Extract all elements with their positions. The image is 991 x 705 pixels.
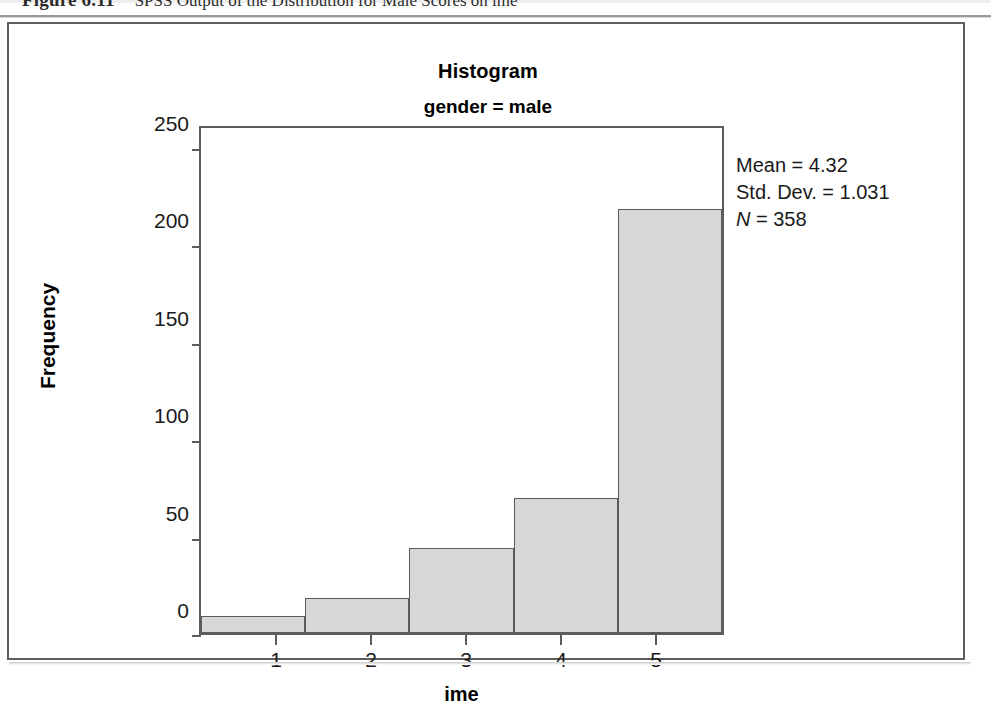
- x-tick-mark-4: [560, 635, 562, 645]
- figure-caption-text: SPSS Output of the Distribution for Male…: [135, 0, 518, 10]
- y-tick-label-100: 100: [154, 404, 189, 428]
- x-tick-label-4: 4: [541, 648, 581, 672]
- x-axis-title: ime: [199, 683, 724, 705]
- stat-stddev: Std. Dev. = 1.031: [736, 179, 890, 206]
- histogram-bar: [514, 498, 618, 633]
- x-tick-label-2: 2: [351, 648, 391, 672]
- y-tick-label-200: 200: [154, 209, 189, 233]
- figure-frame: Histogram gender = male Frequency 250 20…: [7, 22, 965, 660]
- x-tick-mark-2: [370, 635, 372, 645]
- histogram-bar: [618, 209, 722, 633]
- stat-n: N = 358: [736, 206, 890, 233]
- y-axis-ticks: 250 200 150 100 50 0: [104, 126, 189, 635]
- stat-mean: Mean = 4.32: [736, 152, 890, 179]
- y-tick-label-150: 150: [154, 307, 189, 331]
- histogram-bar: [305, 598, 409, 633]
- plot-area: [199, 126, 724, 635]
- x-tick-mark-1: [275, 635, 277, 645]
- caption-divider-rule-shadow: [0, 17, 991, 18]
- y-tick-mark-100: [192, 441, 201, 443]
- y-tick-label-0: 0: [177, 599, 189, 623]
- stat-n-value: = 358: [750, 208, 806, 230]
- histogram-bar: [201, 616, 305, 633]
- histogram-bar: [409, 548, 513, 633]
- chart-subtitle: gender = male: [9, 96, 967, 118]
- figure-caption-label: Figure 6.11: [22, 0, 115, 10]
- x-tick-label-3: 3: [446, 648, 486, 672]
- y-tick-mark-200: [192, 246, 201, 248]
- x-tick-label-1: 1: [256, 648, 296, 672]
- histogram-bars: [201, 128, 722, 633]
- chart-title: Histogram: [9, 60, 967, 83]
- x-tick-mark-3: [465, 635, 467, 645]
- y-tick-mark-150: [192, 344, 201, 346]
- y-tick-mark-250: [192, 149, 201, 151]
- x-axis: 1 2 3 4 5 ime: [199, 635, 724, 705]
- x-tick-label-5: 5: [636, 648, 676, 672]
- y-tick-label-50: 50: [166, 502, 189, 526]
- stat-n-symbol: N: [736, 208, 750, 230]
- figure-bottom-shadow: [9, 662, 971, 665]
- statistics-annotation: Mean = 4.32 Std. Dev. = 1.031 N = 358: [736, 152, 890, 233]
- y-axis-title: Frequency: [36, 236, 60, 436]
- y-tick-mark-50: [192, 539, 201, 541]
- x-tick-mark-5: [655, 635, 657, 645]
- y-tick-label-250: 250: [154, 112, 189, 136]
